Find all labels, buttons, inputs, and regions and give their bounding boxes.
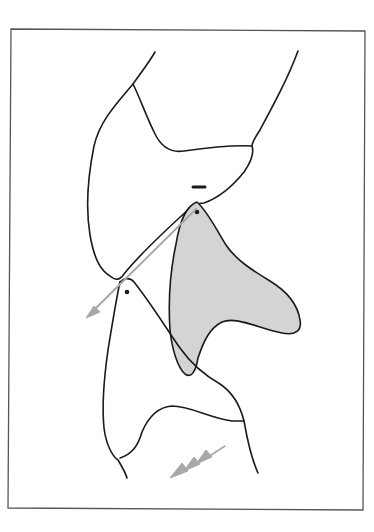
chevron-heads xyxy=(170,450,212,478)
arrow-head-icon xyxy=(86,306,100,318)
diagram-canvas xyxy=(0,0,374,532)
triple-chevron-arrow xyxy=(170,446,225,478)
lower-tooth-crown-line xyxy=(120,406,244,458)
shaded-tooth xyxy=(169,202,300,375)
chevron-arrow-icon xyxy=(170,463,188,478)
shaded-tooth-shape xyxy=(169,202,300,375)
upper-tooth-crown-line xyxy=(133,84,252,151)
lower-tooth-left-outline xyxy=(103,282,127,478)
lower-cusp-dot xyxy=(125,290,130,295)
occlusion-diagram xyxy=(0,0,374,532)
